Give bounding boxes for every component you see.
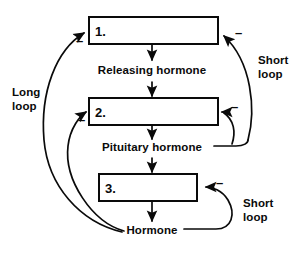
label-long-loop-line2: loop: [12, 100, 37, 112]
label-hormone: Hormone: [126, 224, 177, 236]
label-long-loop-line1: Long: [12, 86, 41, 98]
node-box-3: 3.: [99, 174, 197, 201]
box-1-rect: [89, 17, 218, 44]
edge-long-loop-to-box1: [43, 33, 122, 232]
edge-long-loop-to-box2: [68, 112, 124, 231]
node-box-2: 2.: [89, 98, 218, 125]
node-box-1: 1.: [89, 17, 218, 44]
sign-box1-right: –: [235, 25, 242, 40]
sign-box2-left: –: [78, 112, 85, 127]
sign-box1-left: –: [76, 33, 83, 48]
label-short-loop-bottom: Short loop: [243, 197, 274, 223]
label-releasing-hormone: Releasing hormone: [98, 64, 206, 76]
label-short-loop-bottom-line1: Short: [243, 197, 274, 209]
label-short-loop-top: Short loop: [258, 54, 289, 80]
box-3-label: 3.: [105, 181, 116, 196]
label-short-loop-top-line2: loop: [258, 68, 283, 80]
edge-short-loop-top: [224, 36, 252, 140]
label-short-loop-bottom-line2: loop: [243, 211, 268, 223]
label-short-loop-top-line1: Short: [258, 54, 289, 66]
box-1-label: 1.: [95, 24, 106, 39]
label-long-loop: Long loop: [12, 86, 41, 112]
sign-box3-right: –: [216, 175, 223, 190]
diagram-canvas: 1. 2. 3.: [0, 0, 300, 253]
hormone-feedback-diagram: 1. 2. 3.: [0, 0, 300, 253]
label-pituitary-hormone: Pituitary hormone: [102, 141, 202, 153]
box-2-rect: [89, 98, 218, 125]
sign-box2-right: –: [231, 99, 238, 114]
box-2-label: 2.: [95, 105, 106, 120]
